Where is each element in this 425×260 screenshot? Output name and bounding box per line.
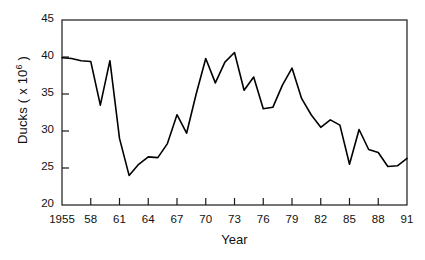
x-axis-ticks <box>91 198 379 205</box>
data-line-ducks <box>62 53 407 176</box>
y-axis-ticks <box>62 57 69 168</box>
plot-frame <box>62 20 407 205</box>
chart-figure: Ducks ( x 106 ) Year 202530354045 195558… <box>0 0 425 260</box>
plot-area <box>0 0 425 260</box>
